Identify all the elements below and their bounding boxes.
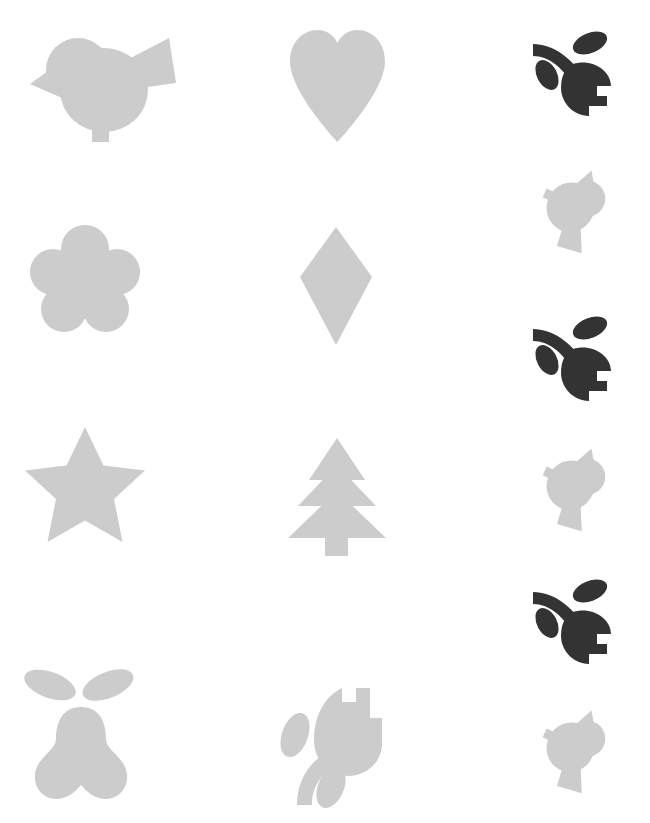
star-path: [25, 427, 145, 542]
tulip-bloom: [561, 610, 611, 664]
tulip-flower-icon: [531, 30, 615, 118]
tulip-group: [275, 688, 382, 812]
tree-group: [288, 438, 386, 556]
bird-body: [60, 48, 148, 132]
tulip-left-leaf: [275, 709, 315, 761]
pear-body: [35, 707, 127, 799]
tree-tier-bottom: [288, 491, 386, 538]
blossom-center: [57, 253, 113, 309]
star-icon: [25, 427, 145, 542]
tulip-bloom: [561, 347, 611, 401]
bird-body-group: [527, 435, 616, 535]
pear-group: [20, 663, 138, 799]
tulip-upper-leaf: [570, 575, 611, 607]
five-petal-blossom-icon: [30, 225, 140, 333]
bird-icon: [514, 147, 635, 266]
tulip-bloom: [561, 62, 611, 116]
tulip-flower-icon: [276, 688, 386, 805]
bird-body-group: [527, 157, 616, 257]
bird-body-group: [527, 697, 616, 797]
pear-leaf-left: [20, 664, 80, 707]
tree-trunk: [325, 538, 348, 556]
bird-icon: [514, 425, 635, 544]
pear-with-leaves-icon: [22, 663, 140, 803]
tulip-flower-icon: [531, 315, 615, 403]
tulip-group: [531, 575, 611, 664]
pear-leaf-right: [78, 663, 138, 707]
tulip-group: [531, 312, 611, 401]
heart-path: [290, 30, 385, 142]
bird-icon: [514, 687, 635, 806]
bird-icon: [22, 28, 177, 143]
tulip-flower-icon: [531, 578, 615, 666]
blossom-group: [30, 225, 140, 332]
bird-body-group: [30, 38, 176, 142]
tulip-upper-leaf: [570, 312, 611, 344]
tulip-upper-leaf: [570, 27, 611, 59]
diamond-path: [300, 227, 372, 345]
clipart-sheet: [0, 0, 650, 823]
fir-tree-icon: [288, 438, 386, 556]
tulip-bloom: [314, 688, 382, 776]
tulip-group: [531, 27, 611, 116]
bird-leg: [92, 124, 109, 142]
diamond-icon: [300, 227, 372, 345]
heart-icon: [290, 30, 385, 142]
